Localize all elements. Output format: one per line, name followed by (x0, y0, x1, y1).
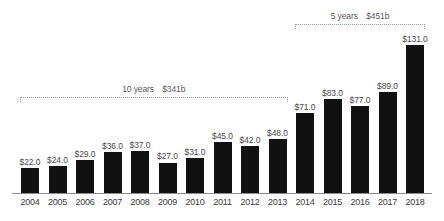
bracket-tick-left (20, 97, 21, 102)
x-tick-label-2011: 2011 (209, 197, 237, 207)
annotation-total-10: $341b (162, 84, 185, 94)
bar-2018[interactable] (406, 45, 424, 193)
bar-value-label-2016: $77.0 (343, 95, 377, 105)
x-tick-label-2005: 2005 (44, 197, 72, 207)
bar-2011[interactable] (214, 142, 232, 193)
annotation-years-5: 5 years (331, 11, 358, 21)
x-tick-label-2016: 2016 (346, 197, 374, 207)
bar-value-label-2013: $48.0 (261, 128, 295, 138)
bracket-line (295, 24, 425, 25)
annotation-years-10: 10 years (122, 84, 154, 94)
bar-2013[interactable] (269, 139, 287, 193)
bar-2008[interactable] (131, 151, 149, 193)
x-tick-label-2004: 2004 (16, 197, 44, 207)
x-tick-label-2013: 2013 (264, 197, 292, 207)
bar-2012[interactable] (241, 146, 259, 193)
annotation-label-10-years: 10 years $341b (20, 84, 288, 94)
bar-value-label-2010: $31.0 (178, 147, 212, 157)
bar-value-label-2018: $131.0 (398, 34, 432, 44)
annotation-bracket-10-years (20, 97, 288, 103)
plot-area: $22.0$24.0$29.0$36.0$37.0$27.0$31.0$45.0… (0, 0, 444, 221)
bar-2009[interactable] (159, 163, 177, 194)
x-tick-label-2018: 2018 (401, 197, 429, 207)
bar-2014[interactable] (296, 113, 314, 193)
annotation-total-5: $451b (366, 11, 389, 21)
x-tick-label-2015: 2015 (319, 197, 347, 207)
bar-value-label-2008: $37.0 (123, 140, 157, 150)
bar-2006[interactable] (76, 160, 94, 193)
x-tick-label-2008: 2008 (126, 197, 154, 207)
x-tick-label-2009: 2009 (154, 197, 182, 207)
bracket-tick-left (295, 24, 296, 29)
bar-2007[interactable] (104, 152, 122, 193)
x-axis-line (12, 193, 432, 194)
x-tick-label-2007: 2007 (99, 197, 127, 207)
bar-2017[interactable] (379, 92, 397, 193)
bar-2016[interactable] (351, 106, 369, 193)
bar-2010[interactable] (186, 158, 204, 193)
bar-2005[interactable] (49, 166, 67, 193)
annotation-bracket-5-years (295, 24, 425, 30)
x-tick-label-2017: 2017 (374, 197, 402, 207)
x-tick-label-2010: 2010 (181, 197, 209, 207)
bar-2015[interactable] (324, 99, 342, 193)
x-tick-label-2006: 2006 (71, 197, 99, 207)
annotation-label-5-years: 5 years $451b (295, 11, 425, 21)
bar-chart: $22.0$24.0$29.0$36.0$37.0$27.0$31.0$45.0… (0, 0, 444, 221)
bar-2004[interactable] (21, 168, 39, 193)
bracket-line (20, 97, 288, 98)
bracket-tick-right (424, 24, 425, 29)
bracket-tick-right (287, 97, 288, 102)
x-tick-label-2014: 2014 (291, 197, 319, 207)
bar-value-label-2017: $89.0 (371, 81, 405, 91)
bar-value-label-2014: $71.0 (288, 102, 322, 112)
x-tick-label-2012: 2012 (236, 197, 264, 207)
